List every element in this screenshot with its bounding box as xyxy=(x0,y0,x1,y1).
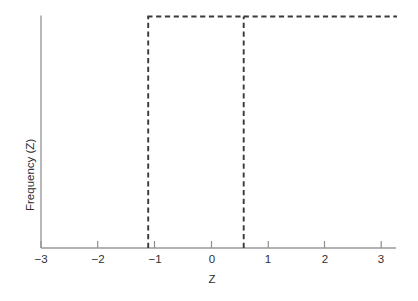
x-tick-label-0: 0 xyxy=(192,253,232,266)
x-tick-label--2: −2 xyxy=(78,253,118,266)
y-axis-label: Frequency (Z) xyxy=(24,139,37,211)
x-axis-label: Z xyxy=(182,273,242,286)
x-tick-label-1: 1 xyxy=(248,253,288,266)
chart-figure: −3 −2 −1 0 1 2 3 Z Frequency (Z) xyxy=(0,0,418,301)
x-tick-label--1: −1 xyxy=(135,253,175,266)
x-tick-label--3: −3 xyxy=(21,253,61,266)
step-function-trace xyxy=(147,17,397,249)
x-axis-ticks xyxy=(41,241,381,248)
x-tick-label-3: 3 xyxy=(361,253,401,266)
x-tick-label-2: 2 xyxy=(305,253,345,266)
